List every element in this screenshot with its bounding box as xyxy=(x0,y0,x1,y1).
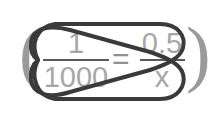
right-fraction-numerator: 0.5 xyxy=(139,28,185,58)
right-fraction-denominator: x xyxy=(139,62,185,92)
open-paren: ( xyxy=(19,16,44,90)
right-fraction: 0.5 x xyxy=(139,28,185,92)
left-fraction: 1 1000 xyxy=(42,28,110,92)
equation-canvas: ( 1 1000 = 0.5 x ) xyxy=(0,0,221,125)
equation-layer: ( 1 1000 = 0.5 x ) xyxy=(0,0,221,125)
close-paren: ) xyxy=(186,16,211,90)
left-fraction-numerator: 1 xyxy=(42,28,110,58)
left-fraction-denominator: 1000 xyxy=(42,62,110,92)
equals-sign: = xyxy=(112,44,130,74)
